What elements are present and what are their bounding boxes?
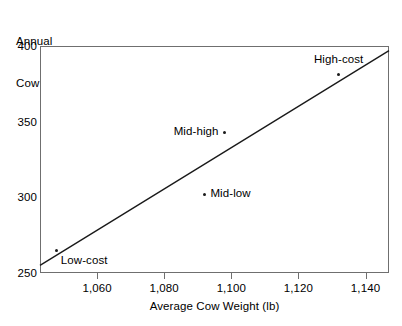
x-tick-mark xyxy=(231,273,232,279)
chart-figure: Annual Cow Cost ($) 250300350400 Low-cos… xyxy=(0,0,402,326)
x-tick-mark xyxy=(298,273,299,279)
x-tick-label: 1,080 xyxy=(134,282,194,295)
data-point-label: Low-cost xyxy=(61,254,108,267)
x-axis-title: Average Cow Weight (lb) xyxy=(40,300,389,312)
plot-overlay xyxy=(0,0,402,326)
x-tick-mark xyxy=(366,273,367,279)
x-tick-label: 1,100 xyxy=(201,282,261,295)
data-point-label: Mid-low xyxy=(210,187,250,200)
data-point-label: High-cost xyxy=(314,53,363,66)
x-tick-mark xyxy=(164,273,165,279)
data-point-label: Mid-high xyxy=(174,125,219,138)
x-tick-mark xyxy=(97,273,98,279)
data-point[interactable] xyxy=(203,193,206,196)
x-tick-label: 1,060 xyxy=(67,282,127,295)
trend-line xyxy=(40,51,389,266)
x-tick-label: 1,120 xyxy=(268,282,328,295)
x-tick-label: 1,140 xyxy=(336,282,396,295)
